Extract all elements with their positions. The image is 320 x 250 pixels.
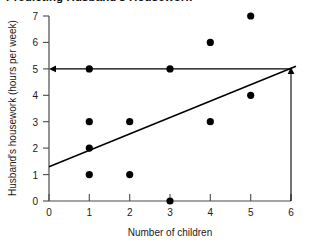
chart-canvas: 0 1 2 3 4 5 6 7 0 1 2 3 4 5 6 Number of …: [0, 0, 320, 250]
data-point: [86, 171, 93, 178]
x-tick-label-1: 1: [87, 207, 93, 218]
regression-line: [49, 66, 296, 166]
data-point: [247, 12, 254, 19]
x-tick-label-2: 2: [127, 207, 133, 218]
y-tick-label-2: 2: [32, 143, 38, 154]
x-tick-label-5: 5: [248, 207, 254, 218]
chart-title: Predicting Husband's Housework: [6, 0, 192, 3]
data-point: [247, 92, 254, 99]
data-point: [207, 39, 214, 46]
data-point: [166, 197, 173, 204]
data-point: [207, 118, 214, 125]
vertical-prediction-line: [288, 67, 295, 201]
data-point: [86, 118, 93, 125]
left-arrowhead: [49, 66, 56, 73]
data-point: [86, 65, 93, 72]
x-tick-label-0: 0: [46, 207, 52, 218]
x-tick-label-6: 6: [288, 207, 294, 218]
y-tick-label-4: 4: [32, 90, 38, 101]
y-tick-label-1: 1: [32, 170, 38, 181]
scatter-plot-figure: Predicting Husband's Housework 0 1 2 3 4…: [0, 0, 320, 250]
data-points: [86, 12, 255, 204]
y-tick-label-7: 7: [32, 11, 38, 22]
x-axis-title: Number of children: [128, 227, 212, 238]
x-tick-label-4: 4: [208, 207, 214, 218]
x-tick-label-3: 3: [167, 207, 173, 218]
y-tick-label-6: 6: [32, 37, 38, 48]
data-point: [166, 65, 173, 72]
data-point: [86, 145, 93, 152]
y-tick-label-5: 5: [32, 64, 38, 75]
data-point: [126, 118, 133, 125]
y-axis-ticks: [43, 16, 49, 201]
y-tick-label-0: 0: [32, 196, 38, 207]
data-point: [126, 171, 133, 178]
y-tick-label-3: 3: [32, 117, 38, 128]
y-axis-title: Husband's housework (hours per week): [7, 20, 18, 196]
